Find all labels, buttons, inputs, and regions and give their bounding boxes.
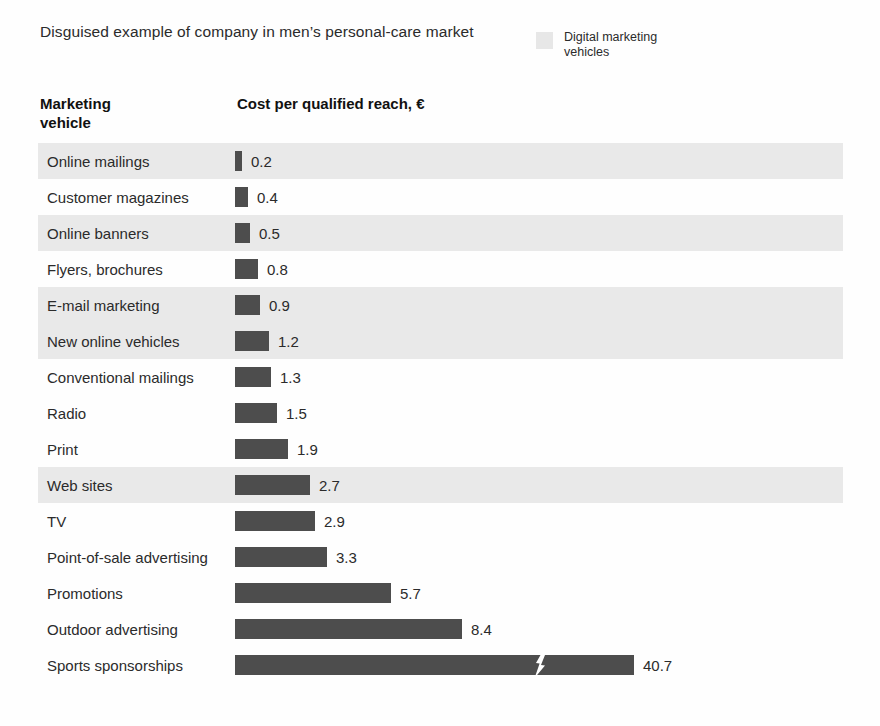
row-highlight-band bbox=[38, 467, 843, 503]
row-label: TV bbox=[47, 503, 66, 539]
bar-value-label: 0.2 bbox=[251, 153, 272, 170]
table-row[interactable]: Outdoor advertising8.4 bbox=[0, 611, 880, 647]
row-label: Promotions bbox=[47, 575, 123, 611]
bar-value-label: 0.5 bbox=[259, 225, 280, 242]
bar-area: 1.5 bbox=[235, 395, 307, 431]
bar-value-label: 2.7 bbox=[319, 477, 340, 494]
bar-area: 1.3 bbox=[235, 359, 301, 395]
row-label: Flyers, brochures bbox=[47, 251, 163, 287]
row-highlight-band bbox=[38, 215, 843, 251]
bar bbox=[235, 475, 310, 495]
table-row[interactable]: Point-of-sale advertising3.3 bbox=[0, 539, 880, 575]
bar-value-label: 1.2 bbox=[278, 333, 299, 350]
legend: Digital marketing vehicles bbox=[536, 30, 684, 60]
chart-header: Disguised example of company in men’s pe… bbox=[0, 0, 880, 88]
bar bbox=[235, 583, 391, 603]
bar-area: 0.2 bbox=[235, 143, 272, 179]
bar-area: 8.4 bbox=[235, 611, 492, 647]
row-highlight-band bbox=[38, 395, 843, 431]
bar-area: 0.5 bbox=[235, 215, 280, 251]
table-row[interactable]: Customer magazines0.4 bbox=[0, 179, 880, 215]
bar-value-label: 2.9 bbox=[324, 513, 345, 530]
bar bbox=[235, 439, 288, 459]
table-row[interactable]: Conventional mailings1.3 bbox=[0, 359, 880, 395]
row-highlight-band bbox=[38, 431, 843, 467]
table-row[interactable]: Print1.9 bbox=[0, 431, 880, 467]
bar-value-label: 0.8 bbox=[267, 261, 288, 278]
column-header-cost: Cost per qualified reach, € bbox=[237, 94, 425, 113]
bar bbox=[235, 187, 248, 207]
bar-value-label: 0.9 bbox=[269, 297, 290, 314]
bar bbox=[235, 511, 315, 531]
row-label: Point-of-sale advertising bbox=[47, 539, 208, 575]
row-label: Outdoor advertising bbox=[47, 611, 178, 647]
table-row[interactable]: Web sites2.7 bbox=[0, 467, 880, 503]
bar-area: 5.7 bbox=[235, 575, 421, 611]
bar-area: 1.9 bbox=[235, 431, 318, 467]
bar bbox=[235, 655, 634, 675]
bar bbox=[235, 295, 260, 315]
column-header-line1: Marketing bbox=[40, 95, 111, 112]
bar-area: 2.7 bbox=[235, 467, 340, 503]
row-label: New online vehicles bbox=[47, 323, 180, 359]
row-label: Online banners bbox=[47, 215, 149, 251]
row-label: Web sites bbox=[47, 467, 113, 503]
row-highlight-band bbox=[38, 575, 843, 611]
bar-area: 0.4 bbox=[235, 179, 278, 215]
bar-area: 1.2 bbox=[235, 323, 299, 359]
bar bbox=[235, 223, 250, 243]
chart-rows: Online mailings0.2Customer magazines0.4O… bbox=[0, 143, 880, 683]
row-highlight-band bbox=[38, 143, 843, 179]
bar-area: 3.3 bbox=[235, 539, 357, 575]
bar-value-label: 8.4 bbox=[471, 621, 492, 638]
legend-swatch-icon bbox=[536, 32, 553, 49]
row-label: Customer magazines bbox=[47, 179, 189, 215]
legend-label: Digital marketing vehicles bbox=[564, 30, 684, 60]
bar bbox=[235, 151, 242, 171]
table-row[interactable]: Flyers, brochures0.8 bbox=[0, 251, 880, 287]
table-row[interactable]: Promotions5.7 bbox=[0, 575, 880, 611]
bar-area: 0.8 bbox=[235, 251, 288, 287]
bar-value-label: 1.9 bbox=[297, 441, 318, 458]
table-row[interactable]: Sports sponsorships40.7 bbox=[0, 647, 880, 683]
bar bbox=[235, 619, 462, 639]
bar bbox=[235, 547, 327, 567]
bar-value-label: 3.3 bbox=[336, 549, 357, 566]
row-label: Online mailings bbox=[47, 143, 150, 179]
bar-area: 0.9 bbox=[235, 287, 290, 323]
bar-area: 2.9 bbox=[235, 503, 345, 539]
bar-value-label: 0.4 bbox=[257, 189, 278, 206]
bar bbox=[235, 367, 271, 387]
row-highlight-band bbox=[38, 503, 843, 539]
bar-value-label: 40.7 bbox=[643, 657, 672, 674]
axis-break-icon bbox=[533, 652, 547, 678]
row-label: Conventional mailings bbox=[47, 359, 194, 395]
row-label: Sports sponsorships bbox=[47, 647, 183, 683]
table-row[interactable]: TV2.9 bbox=[0, 503, 880, 539]
table-row[interactable]: Online banners0.5 bbox=[0, 215, 880, 251]
bar-area: 40.7 bbox=[235, 647, 672, 683]
column-header-marketing-vehicle: Marketing vehicle bbox=[40, 94, 210, 132]
table-row[interactable]: Online mailings0.2 bbox=[0, 143, 880, 179]
bar-value-label: 5.7 bbox=[400, 585, 421, 602]
chart-subtitle: Disguised example of company in men’s pe… bbox=[40, 23, 474, 41]
bar bbox=[235, 331, 269, 351]
table-row[interactable]: New online vehicles1.2 bbox=[0, 323, 880, 359]
table-row[interactable]: Radio1.5 bbox=[0, 395, 880, 431]
bar bbox=[235, 403, 277, 423]
column-header-line2: vehicle bbox=[40, 114, 91, 131]
bar-value-label: 1.3 bbox=[280, 369, 301, 386]
row-label: E-mail marketing bbox=[47, 287, 160, 323]
bar-value-label: 1.5 bbox=[286, 405, 307, 422]
row-label: Print bbox=[47, 431, 78, 467]
bar bbox=[235, 259, 258, 279]
row-label: Radio bbox=[47, 395, 86, 431]
table-row[interactable]: E-mail marketing0.9 bbox=[0, 287, 880, 323]
